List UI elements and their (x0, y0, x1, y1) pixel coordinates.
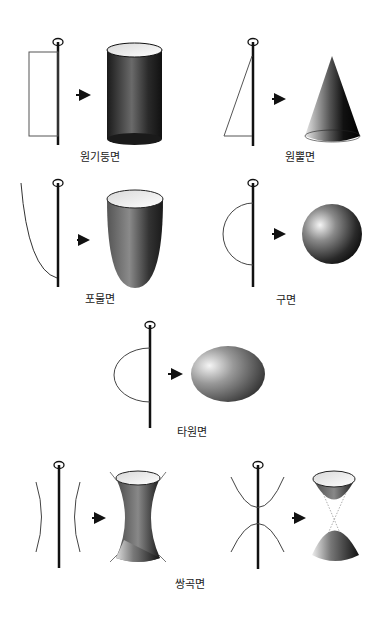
hyperboloid-solid (110, 471, 166, 562)
hyperbola-branch-right (75, 482, 81, 552)
hyperbola-branch-left (36, 482, 42, 552)
rotation-axis (253, 462, 263, 570)
paraboloid-solid (107, 190, 163, 288)
parabola-generator (21, 183, 57, 278)
rotation-axis (248, 180, 258, 288)
rotation-axis (54, 462, 64, 569)
cylinder-label: 원기둥면 (60, 148, 140, 164)
triangle-generator (224, 56, 252, 136)
cone-solid (305, 56, 360, 142)
semi-ellipse-generator (114, 348, 150, 402)
hyperboloid-two-sheets-figure (231, 462, 359, 570)
cone-figure (224, 39, 360, 147)
sphere-solid (302, 204, 362, 264)
ellipsoid-figure (114, 322, 265, 429)
semicircle-generator (223, 203, 253, 265)
hyperboloid-one-sheet-figure (36, 462, 166, 569)
rotation-axis (53, 180, 63, 288)
rectangle-generator (29, 52, 58, 136)
rotation-axis (248, 39, 258, 147)
paraboloid-label: 포물면 (60, 290, 140, 306)
cone-label: 원뿔면 (260, 148, 340, 164)
ellipsoid-label: 타원면 (152, 423, 232, 439)
sphere-label: 구면 (246, 291, 326, 307)
hyperboloid-label: 쌍곡면 (150, 575, 230, 591)
ellipsoid-solid (191, 346, 265, 402)
rotation-axis (145, 322, 155, 429)
cylinder-figure (29, 39, 162, 146)
sphere-figure (223, 180, 362, 288)
surfaces-of-revolution-diagram (0, 0, 385, 617)
paraboloid-figure (21, 180, 163, 289)
cylinder-solid (107, 43, 162, 145)
two-sheet-solid (312, 471, 359, 561)
